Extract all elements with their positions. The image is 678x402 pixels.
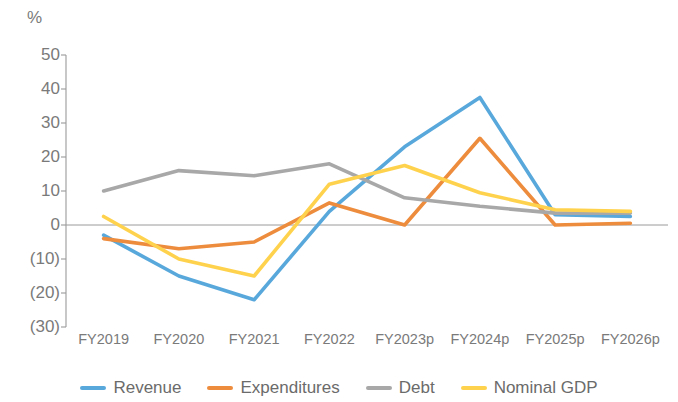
- legend-item-debt[interactable]: Debt: [366, 378, 435, 398]
- x-axis-tick-label: FY2025p: [526, 331, 585, 347]
- x-axis-tick-label: FY2019: [78, 331, 129, 347]
- x-axis-tick-label: FY2023p: [375, 331, 434, 347]
- legend-item-nominal-gdp[interactable]: Nominal GDP: [461, 378, 598, 398]
- x-axis-tick-label: FY2026p: [601, 331, 660, 347]
- legend-label: Debt: [399, 378, 435, 398]
- legend-swatch-icon: [366, 386, 392, 389]
- legend-label: Nominal GDP: [494, 378, 598, 398]
- legend-item-expenditures[interactable]: Expenditures: [207, 378, 339, 398]
- legend-swatch-icon: [80, 386, 106, 389]
- x-axis-tick-labels: FY2019FY2020FY2021FY2022FY2023pFY2024pFY…: [0, 0, 678, 402]
- x-axis-tick-label: FY2021: [229, 331, 280, 347]
- legend-label: Expenditures: [240, 378, 339, 398]
- legend-swatch-icon: [461, 386, 487, 389]
- x-axis-tick-label: FY2022: [304, 331, 355, 347]
- legend-swatch-icon: [207, 386, 233, 389]
- x-axis-tick-label: FY2024p: [450, 331, 509, 347]
- line-chart: % 50403020100(10)(20)(30) FY2019FY2020FY…: [0, 0, 678, 402]
- legend-item-revenue[interactable]: Revenue: [80, 378, 181, 398]
- chart-legend: RevenueExpendituresDebtNominal GDP: [0, 374, 678, 402]
- legend-label: Revenue: [113, 378, 181, 398]
- x-axis-tick-label: FY2020: [153, 331, 204, 347]
